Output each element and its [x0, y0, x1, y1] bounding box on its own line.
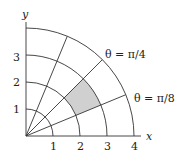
y-axis-label: y — [21, 8, 29, 21]
shaded-region — [64, 79, 101, 116]
polar-diagram: x y 1 2 3 4 1 2 3 θ = π/4 θ = π/8 — [0, 0, 187, 161]
y-tick-3: 3 — [13, 51, 20, 64]
x-axis-label: x — [146, 130, 153, 143]
x-tick-4: 4 — [131, 140, 138, 153]
y-tick-2: 2 — [13, 76, 20, 89]
x-tick-1: 1 — [50, 140, 57, 153]
y-tick-1: 1 — [13, 103, 20, 116]
theta-pi-4-label: θ = π/4 — [105, 48, 146, 61]
x-tick-2: 2 — [77, 140, 84, 153]
x-tick-3: 3 — [104, 140, 111, 153]
theta-pi-8-label: θ = π/8 — [134, 92, 175, 105]
